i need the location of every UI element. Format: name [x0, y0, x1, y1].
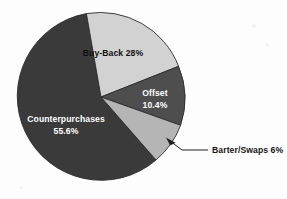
barter-swaps-leader-line: [170, 141, 208, 150]
slice-label-buy-back: Buy-Back 28%: [83, 48, 144, 58]
pie-chart-figure: Buy-Back 28% Offset 10.4% Counterpurchas…: [0, 0, 287, 199]
slice-label-offset-name: Offset: [142, 88, 167, 98]
slice-label-counterpurchases-name: Counterpurchases: [27, 114, 105, 124]
pie-chart-canvas: Buy-Back 28% Offset 10.4% Counterpurchas…: [0, 0, 287, 199]
slice-label-counterpurchases-value: 55.6%: [54, 126, 79, 136]
slice-label-offset-value: 10.4%: [143, 100, 168, 110]
slice-label-barter-swaps: Barter/Swaps 6%: [212, 145, 283, 155]
